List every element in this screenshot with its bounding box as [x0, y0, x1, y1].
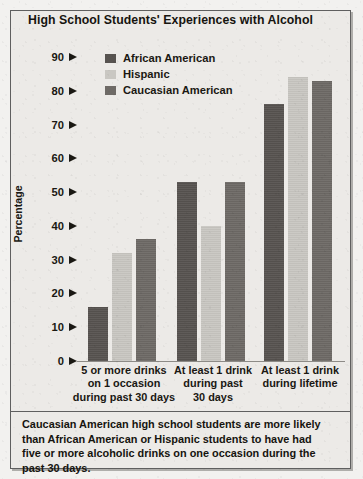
figure-caption: Caucasian American high school students … [22, 417, 332, 475]
x-axis-group-label-line: At least 1 drink [248, 364, 352, 377]
legend-item: Hispanic [105, 67, 233, 81]
y-axis-tick: 80 [52, 84, 77, 98]
triangle-right-icon [69, 53, 77, 61]
y-axis-tick: 20 [52, 286, 77, 300]
triangle-right-icon [69, 121, 77, 129]
bar [288, 77, 308, 361]
legend-swatch-icon [105, 86, 116, 95]
y-axis-tick-label: 90 [52, 51, 64, 63]
triangle-right-icon [69, 188, 77, 196]
y-axis-tick: 40 [52, 219, 77, 233]
x-axis-group-label-line: during lifetime [248, 377, 352, 390]
y-axis-tick-label: 40 [52, 220, 64, 232]
triangle-right-icon [69, 256, 77, 264]
y-axis-tick-label: 0 [58, 355, 64, 367]
legend-swatch-icon [105, 54, 116, 63]
y-axis-tick: 60 [52, 151, 77, 165]
y-axis-tick: 50 [52, 185, 77, 199]
figure-page: High School Students' Experiences with A… [0, 0, 363, 479]
legend-item: Caucasian American [105, 83, 233, 97]
y-axis-tick-label: 10 [52, 321, 64, 333]
bar [264, 104, 284, 361]
triangle-right-icon [69, 323, 77, 331]
x-axis-group-label: At least 1 drinkduring lifetime [248, 364, 352, 391]
bar [136, 239, 156, 361]
legend-item-label: Hispanic [123, 68, 170, 80]
y-axis-title: Percentage [12, 164, 24, 264]
x-axis-group-label-line: 30 days [161, 391, 265, 404]
y-axis-tick: 70 [52, 118, 77, 132]
y-axis-tick-label: 60 [52, 152, 64, 164]
y-axis-tick: 90 [52, 50, 77, 64]
y-axis-tick-label: 70 [52, 119, 64, 131]
legend: African AmericanHispanicCaucasian Americ… [105, 51, 233, 99]
legend-item: African American [105, 51, 233, 65]
bar [225, 182, 245, 361]
triangle-right-icon [69, 222, 77, 230]
y-axis-tick: 30 [52, 253, 77, 267]
bar [312, 81, 332, 361]
y-axis-tick-label: 50 [52, 186, 64, 198]
legend-item-label: Caucasian American [123, 84, 233, 96]
caption-divider [11, 411, 350, 412]
legend-swatch-icon [105, 70, 116, 79]
y-axis-tick-label: 30 [52, 254, 64, 266]
legend-item-label: African American [123, 52, 215, 64]
bar [201, 226, 221, 361]
triangle-right-icon [69, 154, 77, 162]
bar [112, 253, 132, 361]
x-axis-baseline [77, 361, 345, 362]
bar [177, 182, 197, 361]
bar [88, 307, 108, 361]
triangle-right-icon [69, 87, 77, 95]
y-axis-tick: 10 [52, 320, 77, 334]
triangle-right-icon [69, 289, 77, 297]
y-axis-tick-label: 20 [52, 287, 64, 299]
y-axis: Percentage 0102030405060708090 [0, 0, 77, 479]
y-axis-tick-label: 80 [52, 85, 64, 97]
